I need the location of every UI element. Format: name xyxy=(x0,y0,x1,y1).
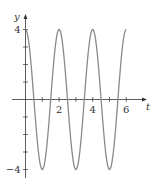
y-tick-label: −4 xyxy=(6,164,21,175)
y-tick-label: 4 xyxy=(14,24,20,35)
x-tick-label: 6 xyxy=(123,104,129,115)
cosine-chart: 246−44 y t xyxy=(0,0,160,188)
y-axis-label: y xyxy=(13,11,20,22)
x-axis-label: t xyxy=(146,101,151,112)
x-tick-label: 2 xyxy=(56,104,62,115)
x-tick-label: 4 xyxy=(90,104,96,115)
y-axis-arrow-icon xyxy=(24,14,28,19)
